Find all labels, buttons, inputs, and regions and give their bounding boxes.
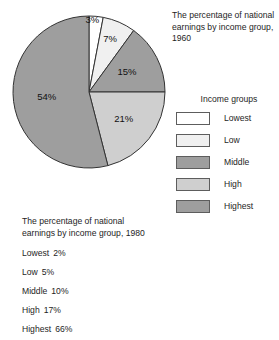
legend-swatch-highest: [176, 200, 210, 213]
chart-title-1960: The percentage of national earnings by i…: [172, 10, 278, 45]
legend-item-highest: Highest: [176, 200, 278, 213]
chart-title-1960-line2: earnings by income group,: [172, 22, 278, 34]
stat-label-lowest: Lowest: [22, 248, 49, 258]
legend-label-high: High: [224, 179, 242, 190]
legend-item-high: High: [176, 178, 278, 191]
stat-row-high: High17%: [22, 305, 172, 316]
legend-swatch-middle: [176, 156, 210, 169]
legend-swatch-lowest: [176, 112, 210, 125]
stat-value-middle: 10%: [51, 286, 68, 296]
pie-chart: 3%7%15%21%54%: [11, 14, 167, 170]
pie-slice-label-lowest: 3%: [86, 14, 100, 25]
chart-title-1980-line1: The percentage of national: [22, 216, 172, 228]
chart-title-1960-line1: The percentage of national: [172, 10, 278, 22]
data-block-1980: The percentage of national earnings by i…: [22, 216, 172, 335]
legend-items: LowestLowMiddleHighHighest: [176, 112, 278, 213]
pie-slice-label-low: 7%: [103, 33, 117, 44]
legend-label-middle: Middle: [224, 157, 249, 168]
cropped-text-remnant: [0, 0, 279, 4]
legend-swatch-low: [176, 134, 210, 147]
legend-item-low: Low: [176, 134, 278, 147]
stat-row-lowest: Lowest2%: [22, 248, 172, 259]
pie-chart-svg: 3%7%15%21%54%: [11, 14, 167, 170]
stat-row-middle: Middle10%: [22, 286, 172, 297]
pie-slice-label-middle: 15%: [117, 66, 137, 77]
legend-item-middle: Middle: [176, 156, 278, 169]
chart-title-1980: The percentage of national earnings by i…: [22, 216, 172, 239]
stat-label-high: High: [22, 305, 40, 315]
stat-value-lowest: 2%: [53, 248, 65, 258]
pie-slice-group: [13, 16, 165, 168]
legend-label-low: Low: [224, 135, 240, 146]
stat-value-highest: 66%: [55, 324, 72, 334]
chart-title-1960-line3: 1960: [172, 33, 278, 45]
legend-label-lowest: Lowest: [224, 113, 251, 124]
stat-value-high: 17%: [44, 305, 61, 315]
legend-swatch-high: [176, 178, 210, 191]
legend-item-lowest: Lowest: [176, 112, 278, 125]
stat-row-low: Low5%: [22, 267, 172, 278]
stat-row-highest: Highest66%: [22, 324, 172, 335]
stat-value-low: 5%: [42, 267, 54, 277]
stat-label-highest: Highest: [22, 324, 51, 334]
pie-slice-label-high: 21%: [114, 113, 134, 124]
stat-list-1980: Lowest2%Low5%Middle10%High17%Highest66%: [22, 248, 172, 335]
legend: Income groups LowestLowMiddleHighHighest: [176, 94, 278, 213]
stat-label-middle: Middle: [22, 286, 47, 296]
chart-title-1980-line2: earnings by income group, 1980: [22, 228, 172, 240]
legend-label-highest: Highest: [224, 201, 253, 212]
legend-title: Income groups: [180, 94, 278, 105]
pie-slice-label-highest: 54%: [37, 91, 57, 102]
stat-label-low: Low: [22, 267, 38, 277]
